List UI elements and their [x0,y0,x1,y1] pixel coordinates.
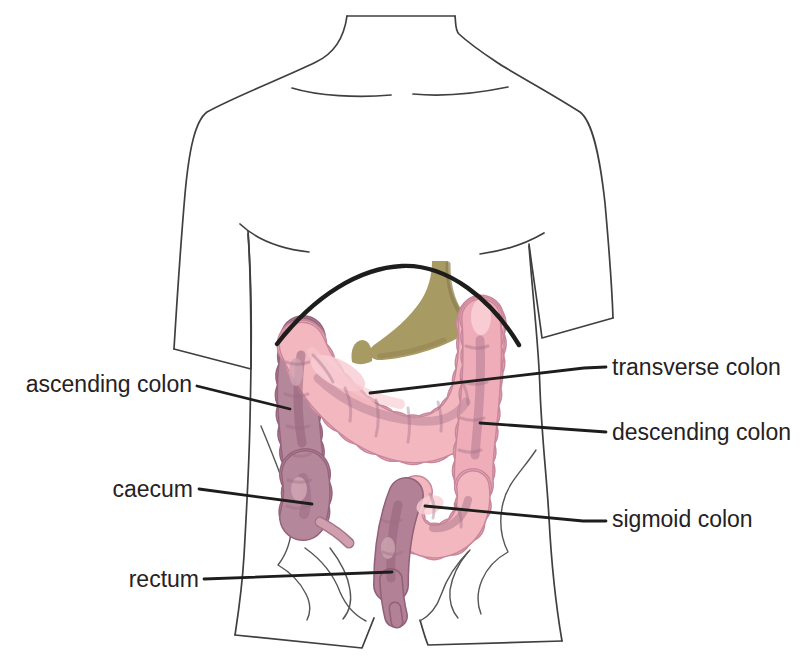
left-clavicle-line [292,88,391,96]
right-chest-line [480,233,544,254]
left-sleeve-line [174,231,251,369]
left-chest-line [240,224,309,252]
appendix-shape [320,522,349,543]
right-sleeve-line [529,244,613,338]
label-descending-colon: descending colon [612,419,791,445]
right-groin-line [420,550,470,621]
label-sigmoid-colon: sigmoid colon [612,506,753,532]
label-caecum: caecum [112,476,193,502]
right-clavicle-line [413,87,508,95]
diagram-canvas: ascending colon caecum rectum transverse… [0,0,808,669]
anatomy-diagram: ascending colon caecum rectum transverse… [0,0,808,669]
left-pelvic-inner-line [330,548,351,619]
right-torso-side-line [529,246,562,641]
right-shoulder-arm-line [455,16,613,318]
label-ascending-colon: ascending colon [26,371,192,397]
right-leg-line [420,620,562,645]
left-leg-line [235,618,374,648]
label-transverse-colon: transverse colon [612,354,781,380]
left-groin-line [305,548,366,621]
label-rectum: rectum [129,566,199,592]
leader-line-rectum [204,572,392,579]
left-torso-side-line [235,234,251,635]
duodenum-lobe [351,340,372,364]
